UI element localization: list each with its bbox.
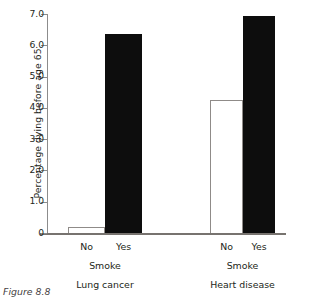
y-axis-line [47, 14, 48, 233]
x-label-lung-cancer-yes: Yes [105, 241, 142, 252]
bar-lung-cancer-yes[interactable] [105, 34, 142, 233]
y-tick-label: 6.0 [29, 39, 44, 50]
bar-lung-cancer-no[interactable] [68, 227, 105, 233]
group-axis-label-lung-cancer: Smoke [68, 260, 142, 271]
y-tick-label: 0 [38, 227, 44, 238]
y-axis-title: Percentage dying before age 65 [32, 29, 43, 219]
y-tick-label: 5.0 [29, 70, 44, 81]
y-tick-label: 1.0 [29, 195, 44, 206]
figure-container: Percentage dying before age 65 0 1.0 2.0… [0, 0, 313, 303]
y-tick-label: 2.0 [29, 164, 44, 175]
bar-heart-disease-no[interactable] [210, 100, 243, 233]
x-axis-line [40, 233, 286, 235]
figure-caption: Figure 8.8 [3, 286, 50, 297]
x-label-lung-cancer-no: No [68, 241, 105, 252]
plot-area: 0 1.0 2.0 3.0 4.0 5.0 6.0 7.0 [47, 14, 286, 233]
x-label-heart-disease-yes: Yes [243, 241, 275, 252]
y-tick-label: 3.0 [29, 133, 44, 144]
y-tick-label: 4.0 [29, 101, 44, 112]
bar-heart-disease-yes[interactable] [243, 16, 275, 233]
group-axis-label-heart-disease: Smoke [210, 260, 275, 271]
group-name-lung-cancer: Lung cancer [68, 279, 142, 290]
y-tick-label: 7.0 [29, 8, 44, 19]
group-name-heart-disease: Heart disease [210, 279, 275, 290]
x-label-heart-disease-no: No [210, 241, 243, 252]
